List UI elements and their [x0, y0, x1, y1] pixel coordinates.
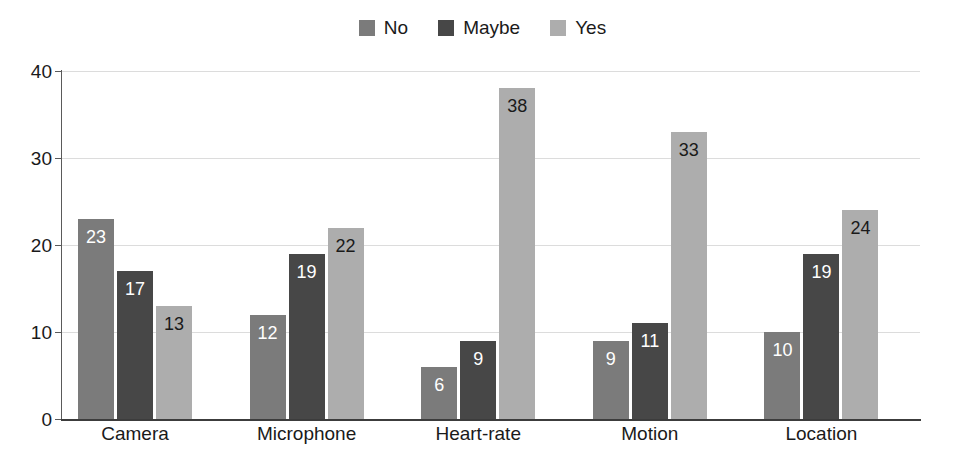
legend-item-no[interactable]: No: [359, 18, 408, 37]
category-label-microphone: Microphone: [250, 424, 364, 443]
y-axis-tick: [55, 158, 61, 159]
y-axis-tick: [55, 332, 61, 333]
bar-value-label: 38: [499, 97, 535, 115]
plot-area: 231713121922693891133101924: [62, 71, 920, 419]
category-label-heart-rate: Heart-rate: [421, 424, 535, 443]
y-axis-tick: [55, 71, 61, 72]
bar-chart: NoMaybeYes 010203040 2317131219226938911…: [0, 0, 965, 461]
bar-microphone-yes[interactable]: 22: [328, 228, 364, 419]
bar-value-label: 12: [250, 324, 286, 342]
bar-group-camera: 231713: [78, 71, 192, 419]
bar-value-label: 6: [421, 376, 457, 394]
bar-location-no[interactable]: 10: [764, 332, 800, 419]
legend-swatch-icon: [550, 20, 566, 36]
y-axis-tick: [55, 419, 61, 420]
bar-value-label: 11: [632, 332, 668, 350]
y-axis-tick-label: 0: [6, 410, 52, 429]
legend-item-yes[interactable]: Yes: [550, 18, 606, 37]
y-axis-tick-label: 30: [6, 149, 52, 168]
bar-value-label: 9: [460, 350, 496, 368]
bar-value-label: 23: [78, 228, 114, 246]
bar-group-motion: 91133: [593, 71, 707, 419]
bar-camera-no[interactable]: 23: [78, 219, 114, 419]
bar-motion-yes[interactable]: 33: [671, 132, 707, 419]
legend-label: No: [384, 18, 408, 37]
legend-label: Yes: [575, 18, 606, 37]
legend-swatch-icon: [359, 20, 375, 36]
bar-value-label: 33: [671, 141, 707, 159]
legend-swatch-icon: [438, 20, 454, 36]
bar-location-yes[interactable]: 24: [842, 210, 878, 419]
bar-group-microphone: 121922: [250, 71, 364, 419]
legend-item-maybe[interactable]: Maybe: [438, 18, 520, 37]
bar-group-location: 101924: [764, 71, 878, 419]
bar-microphone-no[interactable]: 12: [250, 315, 286, 419]
bar-value-label: 19: [803, 263, 839, 281]
category-label-motion: Motion: [593, 424, 707, 443]
bar-value-label: 24: [842, 219, 878, 237]
bar-motion-no[interactable]: 9: [593, 341, 629, 419]
y-axis-labels: 010203040: [0, 0, 52, 461]
bar-location-maybe[interactable]: 19: [803, 254, 839, 419]
bar-value-label: 17: [117, 280, 153, 298]
bar-microphone-maybe[interactable]: 19: [289, 254, 325, 419]
bar-group-heart-rate: 6938: [421, 71, 535, 419]
bar-value-label: 9: [593, 350, 629, 368]
category-label-location: Location: [764, 424, 878, 443]
y-axis-tick-label: 20: [6, 236, 52, 255]
category-label-camera: Camera: [78, 424, 192, 443]
bar-heart-rate-no[interactable]: 6: [421, 367, 457, 419]
y-axis-tick-label: 10: [6, 323, 52, 342]
bar-value-label: 19: [289, 263, 325, 281]
bar-heart-rate-yes[interactable]: 38: [499, 88, 535, 419]
bar-camera-maybe[interactable]: 17: [117, 271, 153, 419]
chart-legend: NoMaybeYes: [0, 18, 965, 37]
bar-value-label: 22: [328, 237, 364, 255]
x-axis-line: [61, 419, 921, 421]
bar-value-label: 13: [156, 315, 192, 333]
legend-label: Maybe: [463, 18, 520, 37]
bar-heart-rate-maybe[interactable]: 9: [460, 341, 496, 419]
y-axis-tick: [55, 245, 61, 246]
bar-camera-yes[interactable]: 13: [156, 306, 192, 419]
bar-motion-maybe[interactable]: 11: [632, 323, 668, 419]
y-axis-tick-label: 40: [6, 62, 52, 81]
bar-value-label: 10: [764, 341, 800, 359]
